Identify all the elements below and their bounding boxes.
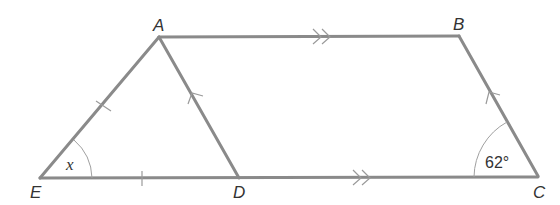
segment-ad xyxy=(159,37,239,178)
segment-ea xyxy=(40,37,159,178)
vertex-label-e: E xyxy=(30,183,42,202)
vertex-label-a: A xyxy=(152,16,164,35)
vertex-label-d: D xyxy=(233,183,245,202)
angle-label-62: 62° xyxy=(485,154,509,171)
angle-label-x: x xyxy=(65,155,74,174)
vertex-label-b: B xyxy=(453,15,464,34)
geometry-diagram: A B C D E x 62° xyxy=(0,0,560,205)
vertex-label-c: C xyxy=(533,183,546,202)
segment-ec xyxy=(40,177,538,178)
segment-ab xyxy=(159,36,459,37)
angle-arc-e xyxy=(74,140,92,178)
